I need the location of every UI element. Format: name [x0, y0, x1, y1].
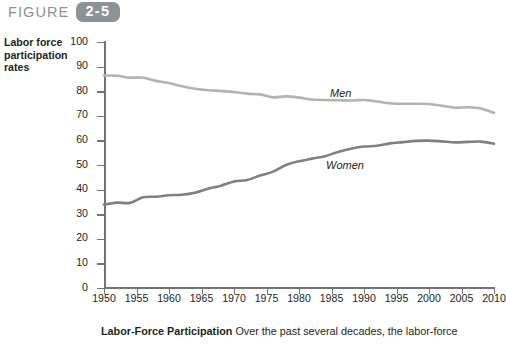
series-label-women: Women: [326, 159, 364, 171]
caption-text: Over the past several decades, the labor…: [235, 325, 457, 337]
y-tick: 20: [97, 239, 104, 240]
y-tick-label: 100: [70, 35, 88, 47]
y-tick: 0: [97, 288, 104, 289]
y-tick-label: 10: [76, 256, 88, 268]
y-tick: 100: [97, 42, 104, 43]
x-tick-label: 1990: [352, 292, 376, 304]
y-tick-label: 20: [76, 231, 88, 243]
y-tick-label: 30: [76, 207, 88, 219]
y-tick-label: 50: [76, 158, 88, 170]
y-tick: 10: [97, 263, 104, 264]
figure-number-badge: 2-5: [76, 2, 119, 22]
y-tick-label: 70: [76, 108, 88, 120]
caption-title: Labor-Force Participation: [101, 325, 232, 337]
y-tick: 50: [97, 165, 104, 166]
figure-label: FIGURE: [8, 4, 69, 20]
x-tick-label: 1995: [385, 292, 409, 304]
y-tick: 40: [97, 190, 104, 191]
y-tick-label: 80: [76, 84, 88, 96]
y-tick-label: 60: [76, 133, 88, 145]
y-tick: 30: [97, 214, 104, 215]
x-tick-label: 1985: [320, 292, 344, 304]
y-tick: 60: [97, 140, 104, 141]
y-tick: 90: [97, 67, 104, 68]
x-tick-label: 1970: [222, 292, 246, 304]
figure-caption: Labor-Force Participation Over the past …: [101, 324, 501, 338]
chart-plot-area: Men Women Year 0102030405060708090100195…: [104, 42, 494, 288]
y-tick-label: 0: [82, 281, 88, 293]
series-label-men: Men: [330, 87, 351, 99]
x-tick-label: 1975: [255, 292, 279, 304]
y-tick: 70: [97, 116, 104, 117]
series-line-women: [104, 141, 494, 205]
series-line-men: [104, 75, 494, 112]
x-tick-label: 2005: [450, 292, 474, 304]
figure-header: FIGURE 2-5: [8, 2, 120, 22]
x-tick-label: 2010: [482, 292, 506, 304]
x-tick-label: 1960: [157, 292, 181, 304]
y-tick: 80: [97, 91, 104, 92]
y-tick-label: 90: [76, 59, 88, 71]
x-tick-label: 1980: [287, 292, 311, 304]
y-tick-label: 40: [76, 182, 88, 194]
x-tick-label: 1955: [125, 292, 149, 304]
x-tick-label: 1965: [190, 292, 214, 304]
x-tick-label: 1950: [92, 292, 116, 304]
x-tick-label: 2000: [417, 292, 441, 304]
chart-series-svg: [104, 42, 496, 289]
